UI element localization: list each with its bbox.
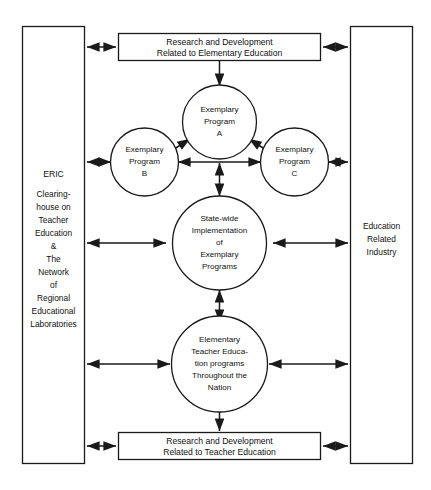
eric-clearinghouse-line-12: Laboratories (30, 319, 77, 329)
program-c-line-0: Exemplary (275, 145, 314, 154)
teacher-education-line-4: Nation (208, 383, 231, 392)
teacher-education-line-2: tion programs (195, 359, 244, 368)
eric-clearinghouse-line-5: Education (35, 228, 73, 238)
eric-clearinghouse-line-8: Network (38, 267, 70, 277)
program-c-line-1: Program (279, 157, 310, 166)
statewide-line-3: Exemplary (200, 250, 239, 259)
eric-clearinghouse-line-9: of (50, 280, 58, 290)
diagram-root: ERIC Clearing- house on Teacher Educatio… (0, 0, 431, 490)
bottom-box-line-1: Related to Teacher Education (163, 447, 276, 457)
program-a-line-2: A (217, 129, 223, 138)
eric-clearinghouse-line-6: & (51, 241, 57, 251)
teacher-education-line-3: Throughout the (192, 371, 247, 380)
top-box-line-1: Related to Elementary Education (157, 48, 283, 58)
teacher-education-line-1: Teacher Educa- (191, 347, 248, 356)
eric-clearinghouse-line-10: Regional (37, 293, 70, 303)
education-related-industry-panel[interactable] (351, 27, 413, 464)
program-b-line-2: B (142, 169, 147, 178)
education-industry-line-0: Education (363, 221, 401, 231)
teacher-education-line-0: Elementary (199, 335, 241, 344)
eric-clearinghouse-line-3: house on (36, 202, 71, 212)
eric-clearinghouse-line-2: Clearing- (37, 189, 71, 199)
eric-clearinghouse-line-4: Teacher (39, 215, 69, 225)
program-c-line-2: C (292, 169, 298, 178)
flow-diagram-canvas: ERIC Clearing- house on Teacher Educatio… (0, 0, 431, 490)
program-b-line-1: Program (129, 157, 160, 166)
program-a-line-1: Program (204, 117, 235, 126)
statewide-line-1: Implementation (192, 226, 247, 235)
education-industry-line-1: Related (367, 234, 396, 244)
statewide-line-4: Programs (202, 262, 237, 271)
education-industry-line-2: Industry (367, 247, 398, 257)
eric-clearinghouse-line-7: The (46, 254, 61, 264)
statewide-line-0: State-wide (200, 214, 239, 223)
statewide-line-2: of (216, 238, 224, 247)
eric-clearinghouse-line-11: Educational (32, 306, 76, 316)
top-box-line-0: Research and Development (166, 37, 273, 47)
program-b-line-0: Exemplary (125, 145, 164, 154)
program-a-line-0: Exemplary (200, 105, 239, 114)
bottom-box-line-0: Research and Development (166, 436, 273, 446)
eric-clearinghouse-line-0: ERIC (43, 169, 64, 179)
